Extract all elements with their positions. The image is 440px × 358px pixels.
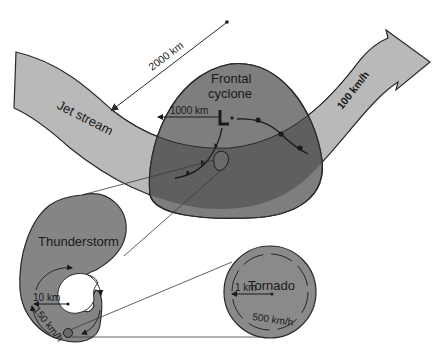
thunderstorm: Thunderstorm 10 km 150 km/h bbox=[20, 194, 126, 344]
thunderstorm-shape bbox=[20, 194, 126, 342]
dimension-end-dot bbox=[225, 20, 229, 24]
cyclone-label-line2: cyclone bbox=[208, 86, 252, 101]
jet-width-label: 2000 km bbox=[146, 39, 186, 73]
thunderstorm-label: Thunderstorm bbox=[38, 234, 119, 249]
thunderstorm-eye bbox=[58, 274, 98, 314]
warm-front-marker bbox=[255, 117, 260, 122]
cyclone-label-line1: Frontal bbox=[211, 71, 252, 86]
center-dot bbox=[67, 303, 70, 306]
center-dot bbox=[271, 293, 274, 296]
warm-front-marker bbox=[297, 145, 302, 150]
cyclone-radius-label: 1000 km bbox=[170, 105, 208, 116]
tornado: Tornado 1 km 500 km/h bbox=[224, 246, 316, 338]
thunderstorm-radius-label: 10 km bbox=[33, 292, 60, 303]
tornado-radius-label: 1 km bbox=[235, 282, 257, 293]
center-dot bbox=[230, 116, 233, 119]
warm-front-marker bbox=[278, 131, 283, 136]
atmospheric-scales-diagram: Frontal cyclone 1000 km 2000 km Jet stre… bbox=[0, 0, 440, 358]
